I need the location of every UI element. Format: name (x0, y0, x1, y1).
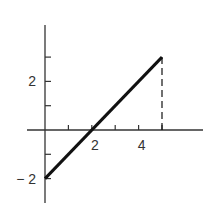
y-tick-label: − 2 (16, 171, 36, 187)
x-tick-label: 2 (91, 137, 99, 153)
data-line (45, 57, 162, 179)
series (45, 57, 162, 179)
axes (27, 25, 203, 203)
line-chart: 242− 2 (0, 0, 203, 203)
y-tick-label: 2 (28, 73, 36, 89)
x-tick-label: 4 (138, 137, 146, 153)
